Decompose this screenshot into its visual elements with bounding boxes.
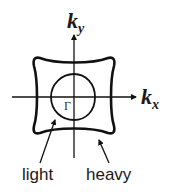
kx-label: kx (141, 84, 159, 112)
fermi-surface-diagram: ky kx Γ light heavy (0, 0, 172, 196)
gamma-point-label: Γ (64, 99, 71, 113)
heavy-label: heavy (86, 165, 132, 184)
heavy-pointer-arrow (99, 140, 109, 163)
ky-label: ky (67, 8, 85, 36)
light-pointer-arrow (40, 120, 55, 163)
light-label: light (22, 165, 53, 184)
